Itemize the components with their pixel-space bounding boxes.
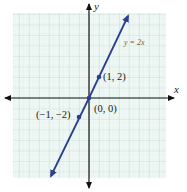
- point-neg1-neg2: [77, 115, 82, 120]
- point-label-neg1-neg2: (−1, −2): [36, 109, 71, 121]
- equation-label: y = 2x: [123, 38, 145, 47]
- point-0-0: [87, 96, 92, 101]
- x-axis-label: x: [173, 83, 179, 95]
- point-label-1-2: (1, 2): [103, 71, 126, 83]
- point-label-0-0: (0, 0): [94, 103, 117, 115]
- graph-of-y-equals-2x: x y y = 2x (1, 2) (0, 0) (−1, −2): [0, 0, 187, 192]
- y-axis-label: y: [93, 0, 99, 12]
- point-1-2: [97, 75, 102, 80]
